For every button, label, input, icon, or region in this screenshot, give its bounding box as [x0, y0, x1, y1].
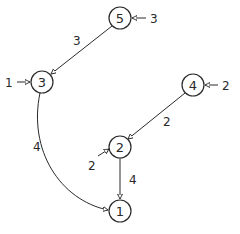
external-input-4: 2 — [205, 79, 230, 93]
node-4: 4 — [182, 74, 204, 96]
node-3: 3 — [31, 71, 53, 93]
external-input-3: 1 — [5, 76, 30, 90]
node-2: 2 — [109, 136, 131, 158]
edge-3-to-1: 4 — [33, 93, 108, 210]
edge-weight-5-3: 3 — [73, 34, 81, 48]
external-input-value-3: 1 — [5, 76, 13, 90]
node-1: 1 — [109, 200, 131, 222]
node-label-4: 4 — [189, 78, 197, 93]
node-label-3: 3 — [38, 75, 46, 90]
external-input-2: 2 — [88, 149, 109, 173]
edge-weight-4-2: 2 — [163, 115, 171, 129]
edge-weight-3-1: 4 — [33, 140, 41, 154]
node-label-1: 1 — [116, 204, 124, 219]
external-input-5: 3 — [132, 12, 158, 26]
graph-diagram: 3 4 2 4 3 1 2 2 5 3 4 — [0, 0, 240, 234]
external-input-value-4: 2 — [222, 79, 230, 93]
edge-weight-2-1: 4 — [129, 173, 137, 187]
external-input-value-2: 2 — [88, 159, 96, 173]
node-label-5: 5 — [116, 11, 124, 26]
node-label-2: 2 — [116, 140, 124, 155]
external-input-value-5: 3 — [150, 12, 158, 26]
edge-4-to-2: 2 — [128, 93, 185, 139]
edge-2-to-1: 4 — [120, 158, 137, 199]
edge-5-to-3: 3 — [51, 26, 112, 74]
node-5: 5 — [109, 7, 131, 29]
